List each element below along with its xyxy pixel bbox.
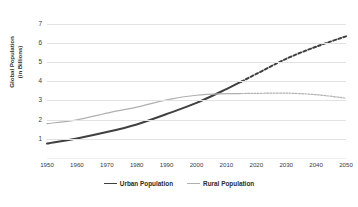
chart-legend: Urban PopulationRural Population	[0, 180, 358, 187]
y-tick-label-5: 5	[26, 58, 42, 65]
x-axis-baseline	[47, 158, 346, 159]
gridline-7	[47, 24, 346, 25]
y-tick-label-4: 4	[26, 77, 42, 84]
y-tick-label-3: 3	[26, 96, 42, 103]
plot-area	[47, 16, 346, 158]
x-tick-label-2050: 2050	[331, 161, 358, 168]
series-layer	[47, 16, 346, 158]
x-tick-label-2000: 2000	[182, 161, 212, 168]
legend-item-urban[interactable]: Urban Population	[104, 180, 173, 187]
population-line-chart: Global Population (in Billions) 7654321 …	[0, 0, 358, 207]
x-axis-tick-labels: 1950196019701980199020002010202020302040…	[47, 161, 346, 173]
gridline-1	[47, 139, 346, 140]
x-tick-label-2010: 2010	[211, 161, 241, 168]
x-tick-label-1990: 1990	[152, 161, 182, 168]
gridline-2	[47, 120, 346, 121]
x-tick-label-1950: 1950	[32, 161, 62, 168]
gridline-3	[47, 100, 346, 101]
y-tick-label-2: 2	[26, 116, 42, 123]
legend-label-rural: Rural Population	[203, 180, 254, 187]
y-tick-label-1: 1	[26, 135, 42, 142]
x-tick-label-1960: 1960	[62, 161, 92, 168]
x-tick-label-2030: 2030	[271, 161, 301, 168]
x-tick-label-1980: 1980	[122, 161, 152, 168]
x-tick-label-1970: 1970	[92, 161, 122, 168]
x-tick-label-2020: 2020	[241, 161, 271, 168]
legend-swatch-rural-icon	[187, 183, 200, 184]
legend-label-urban: Urban Population	[120, 180, 173, 187]
series-line-rural-projected	[241, 93, 346, 98]
gridline-6	[47, 43, 346, 44]
x-tick-label-2040: 2040	[301, 161, 331, 168]
series-line-urban-historical	[47, 82, 241, 144]
legend-item-rural[interactable]: Rural Population	[187, 180, 254, 187]
gridline-5	[47, 62, 346, 63]
y-tick-label-6: 6	[26, 39, 42, 46]
y-tick-label-7: 7	[26, 20, 42, 27]
gridline-4	[47, 81, 346, 82]
legend-swatch-urban-icon	[104, 183, 117, 185]
